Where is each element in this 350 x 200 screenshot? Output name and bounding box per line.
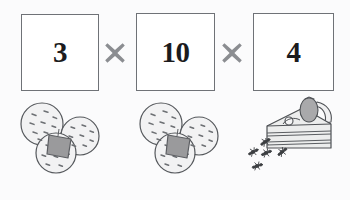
number-box-2-value: 10 <box>162 38 190 67</box>
cookie-group-icon-2 <box>133 98 229 178</box>
strawberry-icon <box>300 97 318 122</box>
ant-trail-icon <box>247 138 313 178</box>
illustration-row: 好噩很黏 <box>0 96 350 200</box>
number-box-2[interactable]: 10 <box>136 13 215 91</box>
multiply-icon-1 <box>104 42 126 64</box>
equation-row: 3 10 4 <box>0 0 350 100</box>
cookie-group-icon-1 <box>14 98 110 178</box>
number-box-1[interactable]: 3 <box>21 14 99 91</box>
worksheet-illustration: 3 10 4 <box>0 0 350 200</box>
number-box-3[interactable]: 4 <box>253 13 334 91</box>
number-box-3-value: 4 <box>287 38 301 67</box>
multiply-icon-2 <box>221 42 243 64</box>
number-box-1-value: 3 <box>53 38 67 67</box>
